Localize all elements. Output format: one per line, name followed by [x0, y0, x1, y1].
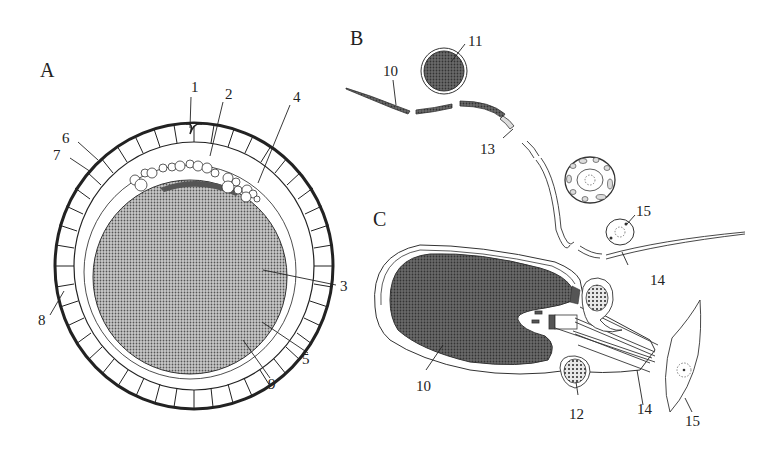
label-8: 8 [38, 312, 46, 328]
label-7: 7 [53, 147, 61, 163]
label-15-b: 15 [636, 203, 651, 219]
end-piece-cross-section [665, 300, 700, 412]
label-1: 1 [191, 79, 199, 95]
label-5: 5 [302, 351, 310, 367]
labels-c: 10 12 14 15 [416, 378, 700, 429]
label-9: 9 [268, 376, 276, 392]
panel-label-b: B [350, 27, 363, 49]
label-14-c: 14 [637, 401, 653, 417]
ooplasm [93, 180, 287, 374]
label-3: 3 [340, 278, 348, 294]
panel-label-c: C [373, 208, 386, 230]
label-13: 13 [480, 141, 495, 157]
principal-piece-cross-section [606, 219, 634, 245]
label-2: 2 [225, 86, 233, 102]
panel-a: A [38, 59, 348, 409]
label-14-b: 14 [650, 272, 666, 288]
label-11: 11 [468, 33, 482, 49]
head-cross-section [421, 48, 467, 94]
label-10-b: 10 [383, 63, 398, 79]
label-4: 4 [293, 89, 301, 105]
midpiece-cross-section [565, 157, 615, 203]
sperm-tail-b [522, 141, 745, 259]
label-6: 6 [62, 130, 70, 146]
label-12: 12 [569, 406, 584, 422]
label-15-c: 15 [685, 413, 700, 429]
panel-label-a: A [40, 59, 55, 81]
label-10-c: 10 [416, 378, 431, 394]
figure-canvas: A [0, 0, 781, 456]
mitochondrion-lower [560, 356, 590, 388]
panel-c: C [373, 208, 701, 429]
sperm-lateral [346, 88, 514, 129]
